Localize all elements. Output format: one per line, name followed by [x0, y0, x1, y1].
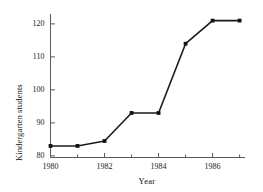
chart-plot-area — [0, 0, 263, 192]
data-point-marker — [76, 144, 80, 148]
x-axis-tick-label: 1982 — [97, 163, 113, 171]
y-axis-ticks — [51, 24, 56, 156]
data-point-markers — [49, 19, 242, 148]
data-point-marker — [184, 42, 188, 46]
x-axis-tick-label: 1986 — [205, 163, 221, 171]
data-point-marker — [49, 144, 53, 148]
data-point-marker — [157, 111, 161, 115]
chart-axes — [51, 14, 246, 158]
y-axis-title: Kindergarten students — [14, 41, 24, 161]
data-point-marker — [103, 139, 107, 143]
x-axis-ticks — [51, 153, 240, 158]
data-point-marker — [130, 111, 134, 115]
data-series-line — [51, 21, 240, 146]
data-point-marker — [238, 19, 242, 23]
line-chart: 8090100110120 1980198219841986 Kindergar… — [0, 0, 263, 192]
y-axis-tick-label: 120 — [0, 20, 45, 28]
x-axis-tick-label: 1980 — [43, 163, 59, 171]
data-point-marker — [211, 19, 215, 23]
x-axis-title: Year — [139, 176, 156, 186]
x-axis-tick-label: 1984 — [151, 163, 167, 171]
